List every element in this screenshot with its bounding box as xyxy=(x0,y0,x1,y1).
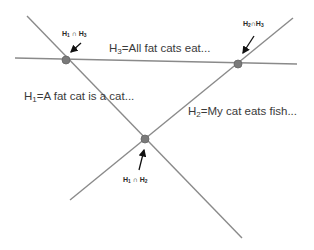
label-h1: H1=A fat cat is a cat... xyxy=(24,90,134,104)
arrow-h1-h2 xyxy=(139,150,144,170)
line-h3 xyxy=(15,58,297,64)
point-h1-h3 xyxy=(62,56,70,64)
label-h1-h3: H1 ∩ H3 xyxy=(62,30,87,38)
label-h2: H2=My cat eats fish... xyxy=(188,105,297,119)
diagram-canvas xyxy=(0,0,314,250)
arrow-h1-h3 xyxy=(71,43,81,52)
point-h2-h3 xyxy=(234,60,242,68)
label-h3: H3=All fat cats eat... xyxy=(109,42,210,56)
label-h2-h3: H2∩H3 xyxy=(243,20,264,28)
label-h1-h2: H1 ∩ H2 xyxy=(123,176,148,184)
point-h1-h2 xyxy=(141,135,149,143)
